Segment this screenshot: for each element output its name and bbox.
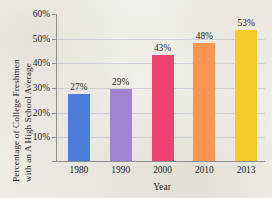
bar-value-label: 53% xyxy=(238,18,255,28)
y-axis-tick xyxy=(52,113,56,114)
bar-2000 xyxy=(152,55,174,161)
chart-screenshot: Percentage of College Freshmen with an A… xyxy=(0,0,272,198)
x-axis-tick-label: 2013 xyxy=(237,165,256,175)
bar-group: 29%1990 xyxy=(110,89,132,161)
bar-1980 xyxy=(68,94,90,161)
x-axis-title: Year xyxy=(0,181,272,192)
y-axis-tick-label: 10% xyxy=(33,132,50,142)
y-axis-title-line-1: Percentage of College Freshmen xyxy=(11,59,21,182)
y-axis-tick xyxy=(52,39,56,40)
y-axis-tick xyxy=(52,88,56,89)
y-axis-tick xyxy=(52,14,56,15)
bar-value-label: 29% xyxy=(112,77,129,87)
x-axis-tick-label: 2000 xyxy=(153,165,172,175)
x-axis-tick-label: 2010 xyxy=(195,165,214,175)
bar-1990 xyxy=(110,89,132,161)
y-axis-tick xyxy=(52,137,56,138)
x-axis-tick-label: 1990 xyxy=(111,165,130,175)
bar-value-label: 43% xyxy=(154,43,171,53)
y-axis-tick-label: 40% xyxy=(33,58,50,68)
bar-group: 48%2010 xyxy=(193,43,215,161)
bar-group: 27%1980 xyxy=(68,94,90,161)
y-axis-tick-label: 20% xyxy=(33,108,50,118)
bar-value-label: 48% xyxy=(196,31,213,41)
y-axis-tick xyxy=(52,63,56,64)
x-axis-line xyxy=(52,161,265,162)
bar-group: 53%2013 xyxy=(235,30,257,161)
bar-value-label: 27% xyxy=(70,82,87,92)
y-axis-tick-label: 50% xyxy=(33,34,50,44)
y-axis-tick-label: 30% xyxy=(33,83,50,93)
x-axis-tick-label: 1980 xyxy=(70,165,89,175)
y-axis-title-line-2: with an A High School Average xyxy=(23,63,33,182)
y-axis-tick-label: 60% xyxy=(33,9,50,19)
gridline xyxy=(57,39,265,40)
bar-group: 43%2000 xyxy=(152,55,174,161)
plot-area: 10%20%30%40%50%60% 27%198029%199043%2000… xyxy=(56,14,265,162)
bar-2013 xyxy=(235,30,257,161)
bar-2010 xyxy=(193,43,215,161)
